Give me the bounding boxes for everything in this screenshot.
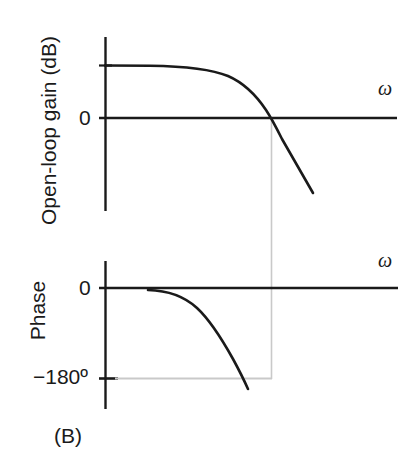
phase-y-axis-label: Phase bbox=[27, 251, 48, 371]
phase-panel bbox=[99, 261, 398, 409]
gain-zero-tick-label: 0 bbox=[79, 107, 91, 128]
gain-curve bbox=[105, 66, 313, 194]
phase-minus180-tick-label: −180º bbox=[33, 366, 88, 387]
panel-caption: (B) bbox=[54, 425, 82, 446]
plot-canvas bbox=[0, 0, 418, 466]
gain-y-axis-label: Open-loop gain (dB) bbox=[38, 31, 59, 231]
phase-x-axis-label: ω bbox=[378, 250, 392, 270]
bode-plot-figure: Open-loop gain (dB) 0 ω Phase 0 −180º ω … bbox=[0, 0, 418, 466]
gain-x-axis-label: ω bbox=[378, 78, 392, 98]
gain-panel bbox=[99, 37, 397, 379]
phase-curve bbox=[148, 290, 248, 389]
phase-zero-tick-label: 0 bbox=[79, 277, 91, 298]
